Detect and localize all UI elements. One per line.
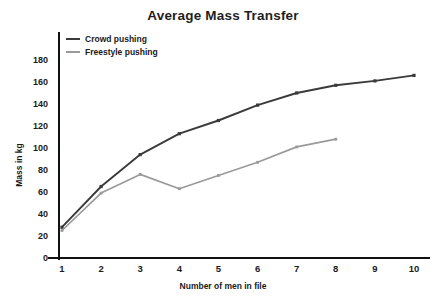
data-point-marker <box>61 229 64 232</box>
legend-label: Crowd pushing <box>85 34 147 44</box>
y-axis-title: Mass in kg <box>14 130 24 200</box>
series-line <box>62 75 414 227</box>
x-axis-title: Number of men in file <box>0 281 446 291</box>
data-point-marker <box>334 138 337 141</box>
data-point-marker <box>295 146 298 149</box>
legend-color-swatch <box>66 38 80 40</box>
chart-legend: Crowd pushingFreestyle pushing <box>66 33 158 59</box>
legend-label: Freestyle pushing <box>85 47 158 57</box>
data-point-marker <box>256 161 259 164</box>
data-point-marker <box>412 74 415 77</box>
data-point-marker <box>295 91 298 94</box>
data-point-marker <box>178 132 181 135</box>
data-point-marker <box>373 79 376 82</box>
data-point-marker <box>217 174 220 177</box>
data-point-marker <box>178 187 181 190</box>
chart-container: Average Mass Transfer 020406080100120140… <box>0 0 446 299</box>
legend-item[interactable]: Crowd pushing <box>66 33 158 44</box>
data-point-marker <box>256 104 259 107</box>
data-point-marker <box>139 173 142 176</box>
data-point-marker <box>100 185 103 188</box>
data-point-marker <box>100 192 103 195</box>
legend-item[interactable]: Freestyle pushing <box>66 46 158 57</box>
data-point-marker <box>217 119 220 122</box>
data-point-marker <box>139 153 142 156</box>
legend-color-swatch <box>66 51 80 53</box>
data-point-marker <box>334 84 337 87</box>
